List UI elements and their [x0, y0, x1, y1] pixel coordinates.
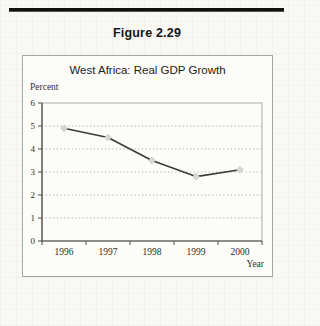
y-tick-label: 3	[31, 167, 36, 177]
x-tick-label: 1998	[143, 247, 162, 257]
y-tick-label: 5	[31, 121, 36, 131]
figure-caption: Figure 2.29	[0, 26, 294, 40]
x-tick-label: 1999	[187, 247, 206, 257]
x-tick-label: 1997	[99, 247, 118, 257]
line-chart-svg: 012345619961997199819992000	[23, 56, 270, 274]
x-tick-label: 1996	[55, 247, 74, 257]
top-rule	[9, 8, 284, 12]
y-tick-label: 0	[31, 236, 36, 246]
chart-panel: 012345619961997199819992000 West Africa:…	[22, 55, 273, 277]
x-axis-title: Year	[246, 259, 264, 269]
y-axis-title: Percent	[30, 82, 59, 92]
y-tick-label: 2	[31, 190, 36, 200]
y-tick-label: 4	[31, 144, 36, 154]
x-tick-label: 2000	[231, 247, 250, 257]
y-tick-label: 1	[31, 213, 36, 223]
chart-title: West Africa: Real GDP Growth	[23, 64, 272, 76]
y-tick-label: 6	[31, 98, 36, 108]
